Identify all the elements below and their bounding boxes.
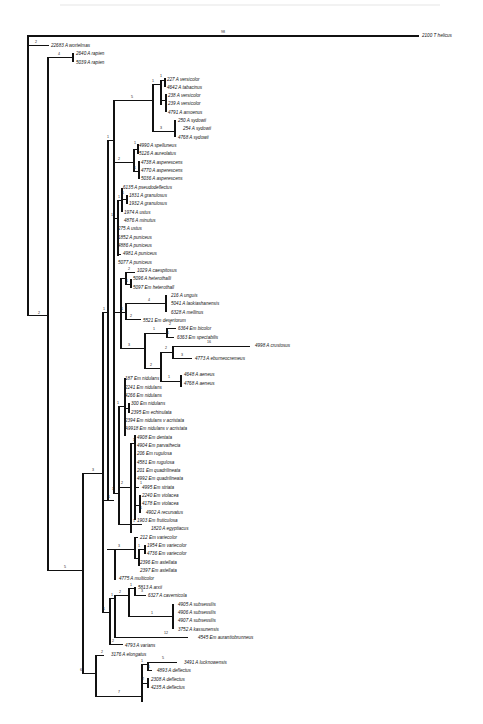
taxon-label: 2640 A rapien	[76, 51, 104, 56]
taxon-label: 3176 A elongatus	[111, 652, 146, 657]
root-child-vertical	[47, 57, 49, 315]
branch	[27, 45, 49, 46]
branch-length: 1	[126, 279, 128, 283]
branch	[82, 473, 102, 474]
branch	[172, 604, 174, 629]
phylogenetic-tree: 98 2100 T helicus 2 22683 A wortelmas 4 …	[0, 0, 483, 724]
branch	[160, 80, 162, 105]
branch	[130, 279, 132, 288]
branch	[152, 131, 174, 132]
branch-length: 1	[111, 213, 113, 217]
taxon-label: 4768 A aeneus	[184, 381, 215, 386]
branch-length: 98	[221, 30, 225, 34]
branch	[120, 348, 144, 349]
branch	[164, 78, 166, 87]
branch	[95, 655, 104, 656]
taxon-label: 239 A versicolor	[168, 101, 201, 106]
branch	[165, 94, 167, 112]
taxon-label: 1954 Em variecolor	[147, 543, 187, 548]
taxon-label: 250 A sydowii	[178, 118, 206, 123]
branch	[107, 549, 114, 550]
taxon-label: 4893 A deflectus	[157, 668, 191, 673]
branch	[128, 616, 172, 617]
branch	[102, 612, 109, 613]
branch-length: 3	[181, 353, 183, 357]
branch	[160, 352, 162, 381]
taxon-label: 187 Em nidulans	[125, 376, 159, 381]
branch-length: 1	[108, 495, 110, 499]
taxon-label: 4773 A eburneocremeus	[195, 356, 245, 361]
branch-length: 1	[133, 519, 135, 523]
taxon-label: 201 Em quadrilineata	[137, 468, 180, 473]
branch	[125, 272, 135, 273]
branch	[113, 312, 120, 313]
taxon-label: 6364 Em bicolor	[178, 326, 211, 331]
taxon-label: 216 A unguis	[171, 293, 197, 298]
root-vertical	[27, 35, 29, 315]
branch-length: 1	[121, 307, 123, 311]
taxon-label: 4902 A recurvatus	[146, 510, 183, 515]
branch	[160, 352, 172, 353]
taxon-label: 4775 A multicolor	[119, 576, 154, 581]
branch-length: 2	[121, 481, 123, 485]
taxon-label: 275 A ustus	[118, 226, 142, 231]
taxon-label: 5041 A laokiashanensis	[171, 301, 219, 306]
taxon-label: 1974 A ustus	[124, 210, 150, 215]
branch	[147, 670, 152, 671]
branch-length: 1	[118, 195, 120, 199]
branch-length: 2	[142, 677, 144, 681]
branch	[174, 120, 176, 137]
branch-length: 1	[168, 375, 170, 379]
branch	[125, 319, 141, 320]
branch	[172, 346, 250, 347]
taxon-label: 5126 A aureolatus	[139, 151, 176, 156]
branch	[117, 254, 121, 255]
branch	[125, 303, 165, 304]
scan-artifact	[60, 4, 440, 6]
branch	[166, 328, 176, 329]
branch-length: 2	[112, 639, 114, 643]
taxon-label: 4995 Em striata	[142, 485, 174, 490]
branch	[180, 375, 182, 387]
taxon-label: 4736 Em variecolor	[147, 551, 187, 556]
branch	[47, 57, 73, 58]
taxon-label: 2308 A deflectus	[151, 677, 185, 682]
branch	[113, 218, 115, 493]
branch-length: 4	[58, 52, 60, 56]
taxon-label: 4906 A subsessilis	[178, 610, 216, 615]
branch-length: 1	[140, 506, 142, 510]
taxon-label: 4581 Em rugulosa	[137, 460, 174, 465]
branch-length: 2	[38, 311, 40, 315]
taxon-label: 4876 A minutus	[124, 218, 156, 223]
branch	[114, 595, 128, 596]
taxon-label: 4992 Em quadrilineata	[137, 476, 183, 481]
branch-length: 2	[119, 590, 121, 594]
branch	[144, 333, 166, 334]
branch	[134, 487, 139, 488]
branch	[72, 53, 74, 62]
branch	[134, 537, 138, 538]
branch	[130, 443, 132, 533]
branch-length: 1	[160, 74, 162, 78]
branch-length: 1	[134, 553, 136, 557]
taxon-label: 5036 A asperescens	[141, 176, 183, 181]
branch-length: 2	[101, 650, 103, 654]
taxon-label: 4793 A varians	[125, 643, 155, 648]
branch	[144, 333, 146, 368]
taxon-label: 6328 A mellinus	[171, 310, 203, 315]
branch-length: 1	[103, 607, 105, 611]
taxon-label: 5077 A puniceus	[118, 260, 152, 265]
branch-length: 5	[64, 565, 66, 569]
branch	[134, 435, 136, 520]
branch	[118, 406, 120, 524]
branch-length: 3	[118, 544, 120, 548]
branch	[114, 549, 134, 550]
branch-length: 2	[165, 346, 167, 350]
taxon-label: 2394 Em nidulans v acristata	[125, 418, 184, 423]
branch	[109, 598, 111, 644]
branch-length: 1	[134, 166, 136, 170]
branch-length: 1	[141, 659, 143, 663]
taxon-label: 1029 A caespitosus	[137, 268, 177, 273]
branch	[144, 368, 160, 369]
branch-length: 1	[107, 135, 109, 139]
